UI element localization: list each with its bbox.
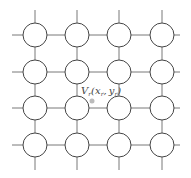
point-label: Vr(xr,yr) (81, 85, 121, 97)
grid-diagram: Vr(xr,yr) (0, 0, 191, 178)
query-point (90, 99, 95, 104)
